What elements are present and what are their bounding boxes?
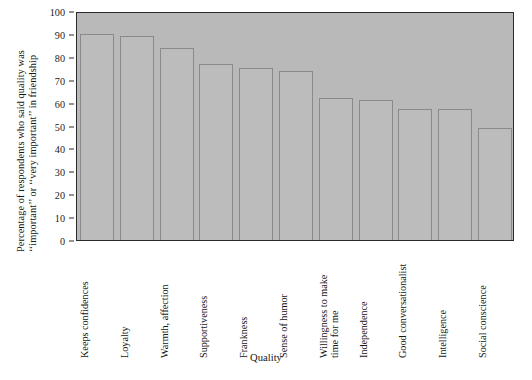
y-tick-mark [69, 34, 74, 35]
x-category-label-line: Social conscience [477, 285, 488, 358]
y-tick-mark [69, 80, 74, 81]
y-tick-label: 40 [55, 144, 65, 155]
y-tick-label: 10 [55, 213, 65, 224]
x-category-label-line: Warmth, affection [159, 284, 170, 358]
y-tick-label: 100 [50, 7, 65, 18]
y-tick-label: 20 [55, 190, 65, 201]
y-tick-label: 30 [55, 167, 65, 178]
x-category-label: Warmth, affection [159, 243, 193, 358]
y-tick-mark [69, 57, 74, 58]
y-axis-ticks: 0102030405060708090100 [42, 0, 74, 258]
bar-chart-figure: Percentage of respondents who said quali… [0, 0, 532, 380]
bar [239, 68, 273, 240]
x-category-label: Supportiveness [198, 243, 232, 358]
x-category-label-line: Good conversationalist [397, 264, 408, 358]
bar [359, 100, 393, 240]
y-tick-label: 50 [55, 121, 65, 132]
y-tick-label: 0 [60, 236, 65, 247]
x-category-label-line: Independence [358, 301, 369, 358]
bar [279, 71, 313, 240]
y-tick-label: 80 [55, 52, 65, 63]
y-tick-mark [69, 172, 74, 173]
x-category-label-line: Willingness to make [318, 275, 329, 358]
bar [199, 64, 233, 240]
x-category-label-line: Sense of humor [278, 294, 289, 358]
x-category-label-line: Keeps confidences [79, 281, 90, 358]
x-category-label-line: time for me [329, 310, 340, 358]
y-tick-label: 60 [55, 98, 65, 109]
y-tick-label: 70 [55, 75, 65, 86]
x-category-label: Independence [358, 243, 392, 358]
bar [398, 109, 432, 240]
y-tick-mark [69, 103, 74, 104]
x-category-label: Willingness to maketime for me [318, 243, 352, 358]
y-tick-mark [69, 195, 74, 196]
y-tick-mark [69, 12, 74, 13]
y-tick-mark [69, 149, 74, 150]
bar [80, 34, 114, 240]
x-axis-title: Quality [0, 352, 532, 363]
x-axis-category-labels: Keeps confidencesLoyaltyWarmth, affectio… [76, 243, 514, 361]
x-category-label: Loyalty [119, 243, 153, 358]
x-category-label-line: Intelligence [437, 310, 448, 358]
x-category-label: Social conscience [477, 243, 511, 358]
y-tick-label: 90 [55, 29, 65, 40]
y-tick-mark [69, 218, 74, 219]
bar [120, 36, 154, 240]
x-category-label: Frankness [238, 243, 272, 358]
x-category-label: Keeps confidences [79, 243, 113, 358]
bar [438, 109, 472, 240]
y-axis-title-line1: Percentage of respondents who said quali… [15, 50, 26, 252]
y-axis-title-line2: ‘‘important’’ or ‘‘very important’’ in f… [27, 55, 38, 252]
y-axis-title: Percentage of respondents who said quali… [0, 0, 42, 258]
y-tick-mark [69, 126, 74, 127]
plot-area [76, 12, 514, 241]
x-category-label: Good conversationalist [397, 243, 431, 358]
bar [478, 128, 512, 240]
x-category-label-line: Supportiveness [198, 296, 209, 358]
y-tick-mark [69, 241, 74, 242]
bar [160, 48, 194, 240]
x-category-label: Intelligence [437, 243, 471, 358]
bar [319, 98, 353, 240]
x-category-label: Sense of humor [278, 243, 312, 358]
